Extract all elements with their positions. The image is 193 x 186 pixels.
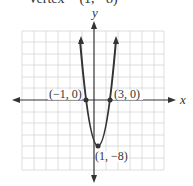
x-axis-left-arrow-icon [12, 97, 20, 103]
left-intercept-point [84, 98, 89, 103]
y-axis-down-arrow-icon [91, 175, 97, 183]
vertex-label: (1, −8) [95, 149, 128, 163]
graph: x y (−1, 0) (3, 0) (1, −8) [0, 0, 193, 186]
curve-left-arrow-icon [78, 36, 84, 44]
x-axis-label: x [179, 92, 186, 107]
left-intercept-label: (−1, 0) [49, 87, 82, 101]
right-intercept-point [108, 98, 113, 103]
y-axis-label: y [90, 5, 98, 20]
y-axis-up-arrow-icon [91, 21, 97, 29]
right-intercept-label: (3, 0) [114, 87, 140, 101]
x-axis-right-arrow-icon [168, 97, 176, 103]
vertex-point [96, 144, 101, 149]
parabola-curve [80, 40, 116, 146]
